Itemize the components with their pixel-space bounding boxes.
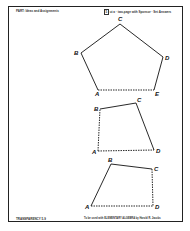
quadrilateral-1-figure (98, 103, 154, 151)
label-E: E (155, 91, 160, 97)
label-C: C (118, 16, 123, 22)
quadrilateral-2-figure (91, 164, 153, 206)
label-D: D (165, 55, 170, 61)
label-A: A (94, 91, 99, 97)
label-A: A (84, 204, 89, 210)
footer-left-text: TRANSPARENCY 5-9 (16, 217, 46, 221)
label-D: D (155, 204, 160, 210)
label-D: D (156, 148, 161, 154)
figures-canvas: A B C D E A B C D A B C D (0, 0, 190, 231)
footer-right-text: To be used with ELEMENTARY ALGEBRA by Ha… (84, 217, 161, 220)
quadrilateral-1-labels: A B C D (91, 97, 161, 155)
label-B: B (74, 50, 79, 56)
label-A: A (91, 149, 96, 155)
label-C: C (154, 166, 159, 172)
label-C: C (137, 97, 142, 103)
pentagon-figure (81, 24, 163, 90)
label-B: B (108, 157, 113, 163)
label-B: B (94, 106, 99, 112)
